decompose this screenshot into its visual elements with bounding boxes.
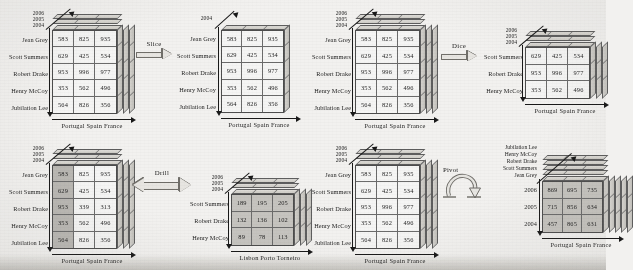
data-cell: 562 <box>377 215 398 231</box>
data-cell: 629 <box>53 47 74 63</box>
row-label: Henry McCoy <box>314 87 351 94</box>
year-row-label: 2005 <box>524 203 537 210</box>
row-label: Jubilation Lee <box>314 239 351 246</box>
row-label: Jubilation Lee <box>314 104 351 111</box>
row-label: Henry McCoy <box>314 222 351 229</box>
row-label: Robert Drake <box>13 205 48 212</box>
data-cell: 935 <box>398 166 419 182</box>
row-label: Robert Drake <box>316 70 351 77</box>
data-cell: 534 <box>95 182 116 198</box>
panel-dice: Jean Grey Scott Summers Robert Drake Hen… <box>303 0 606 135</box>
data-cell: 457 <box>543 215 563 232</box>
member-label: Robert Drake <box>507 158 537 164</box>
data-cell: 935 <box>95 166 116 182</box>
dice-source-front-face: 583 825 935 629 425 534 953 996 977 353 … <box>355 30 420 114</box>
row-label: Robert Drake <box>316 205 351 212</box>
year-row-label: 2004 <box>524 220 537 227</box>
data-cell: 564 <box>356 97 377 113</box>
data-cell: 977 <box>398 199 419 215</box>
data-cell: 353 <box>53 215 74 231</box>
year-label: 2004 <box>33 157 44 163</box>
data-cell: 826 <box>74 232 95 248</box>
row-label: Robert Drake <box>13 70 48 77</box>
slice-source-right-face <box>117 30 135 114</box>
dice-source-year-labels: 2006 2005 2004 <box>319 10 347 32</box>
row-label: Robert Drake <box>194 217 229 224</box>
pivot-rotation-icon <box>443 170 481 204</box>
data-cell: 353 <box>526 81 547 98</box>
data-cell: 977 <box>263 63 283 79</box>
data-cell: 564 <box>356 232 377 248</box>
data-cell: 996 <box>547 65 568 82</box>
data-cell: 78 <box>252 228 272 245</box>
data-cell: 826 <box>242 96 262 112</box>
pivot-source-front-face: 583 825 935 629 425 534 953 996 977 353 … <box>355 165 420 249</box>
year-label: 2004 <box>506 39 517 45</box>
data-cell: 825 <box>377 166 398 182</box>
data-cell: 629 <box>356 47 377 63</box>
data-cell: 313 <box>95 199 116 215</box>
data-cell: 496 <box>95 80 116 96</box>
slice-result-right-face <box>284 30 290 113</box>
pivot-source-year-labels: 2006 2005 2004 <box>319 145 347 167</box>
data-cell: 189 <box>232 195 252 212</box>
data-cell: 564 <box>222 96 242 112</box>
data-cell: 996 <box>74 64 95 80</box>
data-cell: 496 <box>398 80 419 96</box>
row-label: Henry McCoy <box>192 234 229 241</box>
year-label: 2004 <box>201 15 212 21</box>
pivot-operation-label: Pivot <box>443 166 458 173</box>
pivot-result-cube: Jubilation Lee Henry McCoy Robert Drake … <box>475 135 606 270</box>
row-label: Jean Grey <box>22 36 48 43</box>
data-cell: 953 <box>53 64 74 80</box>
row-label: Jean Grey <box>190 35 216 42</box>
member-label: Scott Summers <box>503 165 537 171</box>
year-label: 2004 <box>336 22 347 28</box>
data-cell: 953 <box>53 199 74 215</box>
data-cell: 856 <box>563 199 583 216</box>
data-cell: 356 <box>95 97 116 113</box>
year-row-label: 2006 <box>524 186 537 193</box>
data-cell: 869 <box>543 182 563 199</box>
row-label: Scott Summers <box>190 200 229 207</box>
row-label: Scott Summers <box>9 53 48 60</box>
data-cell: 425 <box>547 48 568 65</box>
data-cell: 634 <box>582 199 602 216</box>
pivot-source-x-label: Portugal Spain France <box>347 257 443 264</box>
drill-operation-label: Drill <box>133 169 191 176</box>
data-cell: 826 <box>377 97 398 113</box>
dice-source-right-face <box>420 30 438 114</box>
data-cell: 583 <box>356 31 377 47</box>
data-cell: 425 <box>377 182 398 198</box>
row-label: Scott Summers <box>9 188 48 195</box>
data-cell: 564 <box>53 97 74 113</box>
data-cell: 825 <box>242 31 262 47</box>
data-cell: 629 <box>222 47 242 63</box>
dice-operation-label: Dice <box>441 42 477 49</box>
dice-result-year-labels: 2006 2005 2004 <box>489 27 517 49</box>
data-cell: 562 <box>547 81 568 98</box>
dice-result-x-label: Portugal Spain France <box>517 107 613 114</box>
data-cell: 353 <box>222 80 242 96</box>
drill-source-front-face: 583 825 935 629 425 534 953 339 313 353 … <box>52 165 117 249</box>
member-label: Henry McCoy <box>505 151 537 157</box>
data-cell: 425 <box>377 47 398 63</box>
slice-result-year-labels: 2004 <box>186 14 212 24</box>
slice-result-x-label: Portugal Spain France <box>213 121 305 128</box>
data-cell: 562 <box>377 80 398 96</box>
data-cell: 356 <box>398 97 419 113</box>
row-label: Jubilation Lee <box>179 103 216 110</box>
data-cell: 953 <box>222 63 242 79</box>
data-cell: 353 <box>356 80 377 96</box>
data-cell: 534 <box>95 47 116 63</box>
data-cell: 977 <box>95 64 116 80</box>
data-cell: 562 <box>242 80 262 96</box>
data-cell: 935 <box>398 31 419 47</box>
dice-operation: Dice <box>441 42 477 62</box>
data-cell: 583 <box>53 31 74 47</box>
year-label: 2004 <box>212 186 223 192</box>
data-cell: 562 <box>74 215 95 231</box>
data-cell: 534 <box>568 48 589 65</box>
data-cell: 562 <box>74 80 95 96</box>
data-cell: 425 <box>74 47 95 63</box>
